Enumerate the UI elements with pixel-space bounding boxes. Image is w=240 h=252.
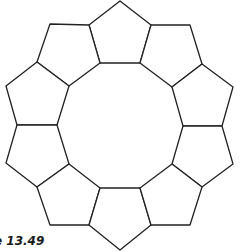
pentagon-ring-diagram (0, 0, 240, 252)
pentagon-top (89, 1, 151, 63)
figure-caption: e 13.49 (0, 234, 44, 248)
pentagon-bottom (89, 188, 151, 250)
